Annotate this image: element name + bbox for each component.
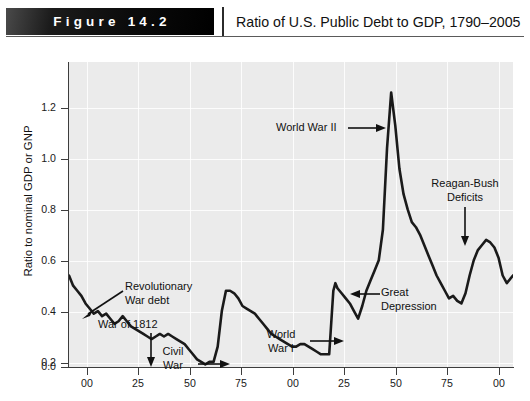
y-tick-1_0 bbox=[61, 159, 68, 160]
x-tick-1900 bbox=[293, 368, 294, 375]
y-tick-0_8 bbox=[61, 210, 68, 211]
arrow-world-war-ii bbox=[348, 122, 388, 134]
arrow-great-depression bbox=[350, 288, 380, 300]
annotation-great-depression: Great Depression bbox=[381, 286, 437, 313]
x-tick-2000 bbox=[499, 368, 500, 375]
y-tick-0_0 bbox=[61, 367, 68, 368]
x-tick-1800 bbox=[87, 368, 88, 375]
y-tick-label-0_0: 0.0 bbox=[41, 360, 56, 372]
arrow-reagan-bush-deficits bbox=[459, 207, 471, 247]
y-tick-label-1_2: 1.2 bbox=[41, 101, 56, 113]
x-tick-1875 bbox=[241, 368, 242, 375]
figure-title: Ratio of U.S. Public Debt to GDP, 1790–2… bbox=[236, 8, 520, 35]
arrow-world-war-i bbox=[310, 335, 346, 347]
x-tick-1975 bbox=[447, 368, 448, 375]
y-tick-1_2 bbox=[61, 108, 68, 109]
y-tick-label-0_4: 0.4 bbox=[41, 305, 56, 317]
figure-header: Figure 14.2 Ratio of U.S. Public Debt to… bbox=[0, 8, 530, 36]
y-tick-label-0_8: 0.8 bbox=[41, 203, 56, 215]
annotation-civil-war: Civil War bbox=[150, 345, 196, 372]
y-axis-title: Ratio to nominal GDP or GNP bbox=[22, 81, 34, 321]
header-underline bbox=[6, 36, 524, 37]
y-tick-label-1_0: 1.0 bbox=[41, 152, 56, 164]
y-tick-label-0_6: 0.6 bbox=[41, 254, 56, 266]
x-tick-1925 bbox=[344, 368, 345, 375]
chart-container: Ratio to nominal GDP or GNP 1.2 1.0 0.8 … bbox=[0, 45, 530, 385]
annotation-world-war-i: World War I bbox=[256, 328, 306, 355]
arrow-revolutionary-war-debt bbox=[78, 288, 126, 320]
annotation-revolutionary-war-debt: Revolutionary War debt bbox=[125, 280, 192, 307]
x-tick-1950 bbox=[396, 368, 397, 375]
y-tick-0_2 bbox=[61, 363, 68, 364]
annotation-war-of-1812: War of 1812 bbox=[98, 318, 158, 332]
figure-number-label: Figure 14.2 bbox=[6, 8, 214, 35]
y-tick-0_6 bbox=[61, 261, 68, 262]
x-tick-1825 bbox=[138, 368, 139, 375]
header-divider bbox=[222, 7, 224, 36]
figure-caption bbox=[6, 388, 524, 400]
figure-number-badge: Figure 14.2 bbox=[6, 8, 214, 35]
annotation-reagan-bush-deficits: Reagan-Bush Deficits bbox=[423, 177, 507, 204]
y-tick-0_4 bbox=[61, 312, 68, 313]
y-axis-line bbox=[68, 62, 69, 368]
annotation-world-war-ii: World War II bbox=[276, 121, 337, 135]
arrow-civil-war bbox=[198, 358, 232, 370]
